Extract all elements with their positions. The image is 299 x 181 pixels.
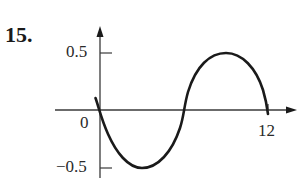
x-axis-arrow-icon [286, 107, 297, 114]
y-axis-arrow-icon [97, 26, 104, 37]
sine-graph [0, 0, 299, 181]
origin-label: 0 [80, 113, 89, 133]
y-tick-label-bottom: −0.5 [56, 157, 87, 177]
x-tick-label-12: 12 [258, 121, 275, 141]
y-tick-label-top: 0.5 [66, 42, 87, 62]
